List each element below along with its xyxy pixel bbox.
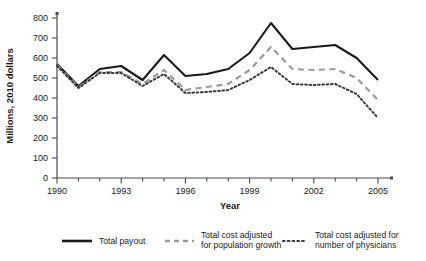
chart-figure: 0100200300400500600700800 19901993199619… xyxy=(0,0,426,261)
y-tick-label: 600 xyxy=(33,53,48,63)
y-tick-label: 500 xyxy=(33,73,48,83)
x-axis-title: Year xyxy=(220,200,240,211)
y-tick-label: 300 xyxy=(33,113,48,123)
y-tick-label: 100 xyxy=(33,153,48,163)
x-tick-label: 1993 xyxy=(111,186,131,196)
y-tick-label: 400 xyxy=(33,93,48,103)
legend-label-total-payout: Total payout xyxy=(99,236,146,246)
y-tick-label: 0 xyxy=(43,173,48,183)
x-tick-label: 2005 xyxy=(368,186,388,196)
legend-label-number-of-physicians-line1: Total cost adjusted for xyxy=(315,230,399,240)
x-tick-label: 1999 xyxy=(240,186,260,196)
y-tick-label: 200 xyxy=(33,133,48,143)
y-axis-cap xyxy=(56,12,59,15)
line-chart: 0100200300400500600700800 19901993199619… xyxy=(0,0,426,261)
x-tick-label: 2002 xyxy=(304,186,324,196)
chart-background xyxy=(0,0,426,261)
legend-label-population-growth-line1: Total cost adjusted xyxy=(201,230,272,240)
y-tick-label: 700 xyxy=(33,33,48,43)
y-axis-title: Millions, 2010 dollars xyxy=(4,48,15,144)
y-tick-label: 800 xyxy=(33,13,48,23)
x-axis-cap xyxy=(390,177,393,180)
x-tick-label: 1990 xyxy=(47,186,67,196)
legend-label-number-of-physicians-line2: number of physicians xyxy=(315,240,396,250)
legend-label-population-growth-line2: for population growth xyxy=(201,240,281,250)
x-tick-label: 1996 xyxy=(175,186,195,196)
